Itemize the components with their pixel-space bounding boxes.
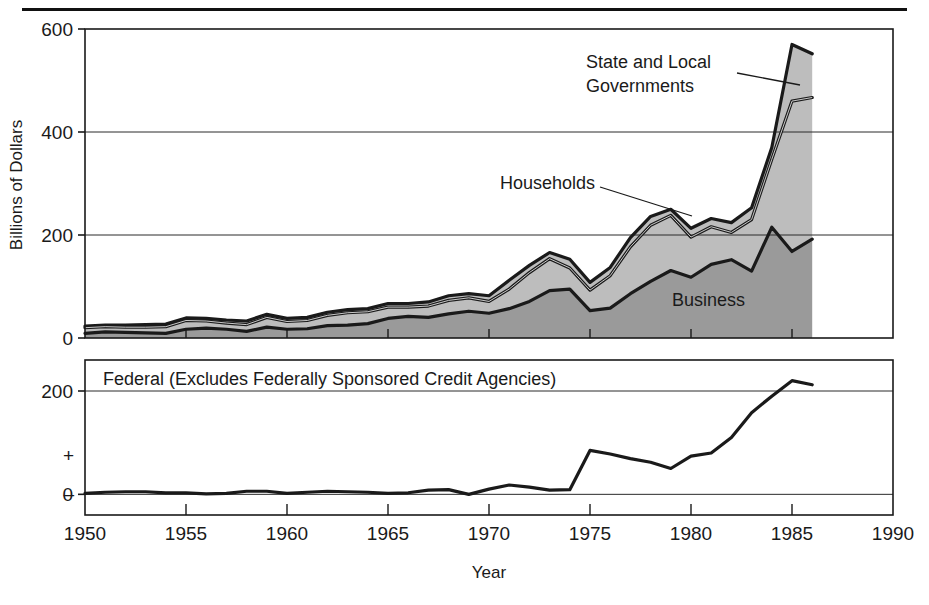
annotation-business: Business	[672, 290, 745, 310]
xtick-label-1955: 1955	[165, 523, 207, 544]
annotation-state-local-line2: Governments	[586, 76, 694, 96]
upper-ytick-200: 200	[41, 225, 73, 246]
xtick-label-1960: 1960	[266, 523, 308, 544]
xtick-label-1980: 1980	[670, 523, 712, 544]
annotation-business-label: Business	[672, 290, 745, 310]
lower-ytick-200: 200	[41, 381, 73, 402]
xtick-label-1965: 1965	[367, 523, 409, 544]
xtick-label-1975: 1975	[569, 523, 611, 544]
y-axis-title: Billions of Dollars	[7, 120, 26, 250]
lower-panel: Federal (Excludes Federally Sponsored Cr…	[41, 360, 914, 544]
chart-svg: 0200400600 State and Local Governments H…	[0, 0, 929, 605]
minus-sign-label: –	[63, 483, 74, 504]
chart-figure: 0200400600 State and Local Governments H…	[0, 0, 929, 605]
chart-canvas: 0200400600 State and Local Governments H…	[0, 0, 929, 605]
x-axis-title: Year	[472, 563, 507, 582]
xtick-label-1950: 1950	[64, 523, 106, 544]
xtick-label-1990: 1990	[872, 523, 914, 544]
annotation-state-local-line1: State and Local	[586, 52, 711, 72]
upper-ytick-0: 0	[62, 328, 73, 349]
annotation-households-label: Households	[500, 173, 595, 193]
xtick-label-1970: 1970	[468, 523, 510, 544]
upper-ytick-600: 600	[41, 19, 73, 40]
x-axis-tick-labels: 195019551960196519701975198019851990	[64, 523, 914, 544]
upper-ytick-400: 400	[41, 122, 73, 143]
xtick-label-1985: 1985	[771, 523, 813, 544]
plus-sign-label: +	[63, 445, 74, 466]
upper-y-tick-labels: 0200400600	[41, 19, 85, 349]
upper-panel: 0200400600	[41, 19, 893, 349]
lower-panel-label: Federal (Excludes Federally Sponsored Cr…	[103, 369, 556, 389]
